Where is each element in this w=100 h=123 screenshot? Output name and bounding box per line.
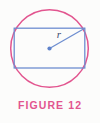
radius-line — [50, 28, 85, 48]
figure-panel: r FIGURE 12 — [0, 0, 100, 123]
center-point-dot — [47, 46, 51, 50]
geometry-figure-diagram: r — [0, 0, 100, 98]
figure-caption: FIGURE 12 — [0, 99, 100, 112]
radius-label: r — [57, 28, 62, 40]
